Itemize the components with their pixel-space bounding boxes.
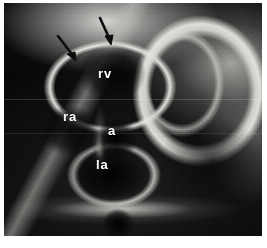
image-grain-layer — [4, 3, 262, 236]
figure-panel: rv ra a la — [0, 0, 267, 248]
scanline-lower — [4, 133, 262, 134]
label-ra: ra — [63, 110, 77, 123]
label-la: la — [96, 158, 109, 171]
label-a: a — [108, 124, 116, 137]
annotation-arrow-right — [97, 16, 123, 50]
medical-image-plate: rv ra a la — [4, 3, 262, 236]
label-rv: rv — [98, 67, 112, 80]
scanline-upper — [4, 99, 262, 100]
annotation-arrow-left — [56, 34, 86, 66]
